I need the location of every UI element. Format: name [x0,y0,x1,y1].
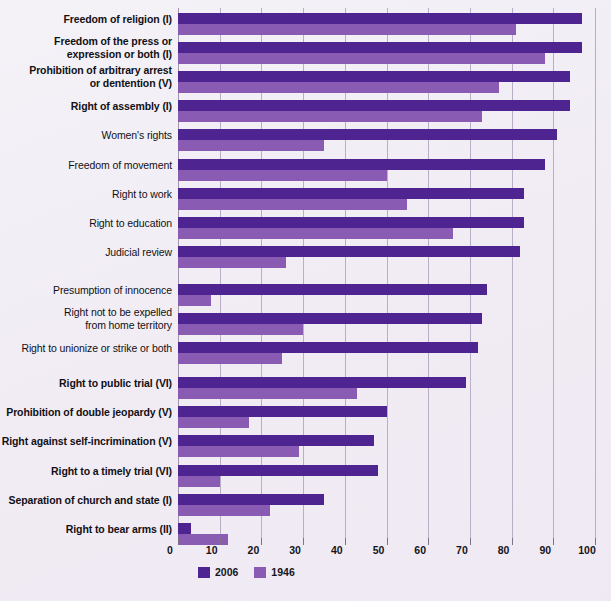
bar-chart: Freedom of religion (I)Freedom of the pr… [0,0,611,601]
bar-1946 [178,140,324,151]
table-row [178,406,595,429]
table-row [178,100,595,123]
x-tick-label: 90 [539,544,551,556]
category-label-line: Freedom of the press or [0,35,172,48]
table-row [178,284,595,307]
bar-1946 [178,257,286,268]
x-tick-label: 50 [373,544,385,556]
bar-2006 [178,42,582,53]
table-row [178,188,595,211]
category-label: Right to public trial (VI) [0,377,172,390]
plot-area [178,8,595,538]
category-label: Prohibition of double jeopardy (V) [0,406,172,419]
x-tick-60 [428,538,429,545]
x-tick-label: 70 [456,544,468,556]
bar-rows [178,8,595,538]
legend: 20061946 [198,566,295,578]
legend-item[interactable]: 1946 [254,566,294,578]
bar-2006 [178,159,545,170]
table-row [178,217,595,240]
category-label: Freedom of the press orexpression or bot… [0,35,172,60]
category-label-line: Right not to be expelled [0,306,172,319]
x-tick-30 [303,538,304,545]
bar-1946 [178,324,303,335]
category-label: Right to work [0,188,172,201]
table-row [178,435,595,458]
x-tick-80 [512,538,513,545]
x-tick-70 [470,538,471,545]
bar-1946 [178,170,387,181]
bar-2006 [178,246,520,257]
bar-1946 [178,505,270,516]
bar-2006 [178,406,387,417]
x-tick-0 [178,538,179,545]
category-label-column: Freedom of religion (I)Freedom of the pr… [0,8,172,538]
category-label: Judicial review [0,246,172,259]
bar-1946 [178,82,499,93]
bar-1946 [178,417,249,428]
bar-1946 [178,476,220,487]
bar-2006 [178,188,524,199]
x-tick-label: 80 [498,544,510,556]
table-row [178,342,595,365]
category-label-line: from home territory [0,319,172,332]
bar-2006 [178,284,487,295]
category-label: Right to education [0,217,172,230]
gridline-100 [595,8,596,538]
bar-2006 [178,494,324,505]
bar-2006 [178,313,482,324]
bar-2006 [178,13,582,24]
bar-1946 [178,353,282,364]
category-label: Presumption of innocence [0,284,172,297]
bar-2006 [178,100,570,111]
x-tick-label: 20 [248,544,260,556]
x-tick-label: 40 [331,544,343,556]
bar-2006 [178,217,524,228]
category-label-line: Prohibition of arbitrary arrest [0,64,172,77]
table-row [178,159,595,182]
legend-label: 2006 [215,566,238,578]
table-row [178,377,595,400]
category-label: Prohibition of arbitrary arrestor denten… [0,64,172,89]
category-label: Right of assembly (I) [0,100,172,113]
bar-1946 [178,388,357,399]
table-row [178,465,595,488]
category-label: Freedom of movement [0,159,172,172]
table-row [178,13,595,36]
category-label: Right not to be expelledfrom home territ… [0,306,172,331]
category-label-line: or dentention (V) [0,77,172,90]
legend-swatch-2006 [198,567,210,578]
table-row [178,42,595,65]
bar-1946 [178,199,407,210]
bar-2006 [178,129,557,140]
table-row [178,494,595,517]
bar-2006 [178,465,378,476]
table-row [178,313,595,336]
x-tick-label: 30 [289,544,301,556]
category-label: Right against self-incrimination (V) [0,435,172,448]
table-row [178,129,595,152]
legend-label: 1946 [271,566,294,578]
bar-2006 [178,377,466,388]
legend-swatch-1946 [254,567,266,578]
category-label: Right to unionize or strike or both [0,342,172,355]
x-axis: 0102030405060708090100 [178,538,603,558]
category-label-line: expression or both (I) [0,48,172,61]
bar-1946 [178,24,516,35]
category-label: Right to a timely trial (VI) [0,465,172,478]
bar-1946 [178,228,453,239]
x-tick-label: 10 [206,544,218,556]
x-tick-10 [220,538,221,545]
bar-2006 [178,523,191,534]
x-tick-label: 0 [167,544,173,556]
bar-1946 [178,446,299,457]
legend-item[interactable]: 2006 [198,566,238,578]
x-tick-40 [345,538,346,545]
bar-1946 [178,111,482,122]
x-tick-label: 60 [414,544,426,556]
category-label: Right to bear arms (II) [0,523,172,536]
category-label: Women's rights [0,129,172,142]
bar-1946 [178,295,211,306]
bar-1946 [178,53,545,64]
x-tick-50 [387,538,388,545]
